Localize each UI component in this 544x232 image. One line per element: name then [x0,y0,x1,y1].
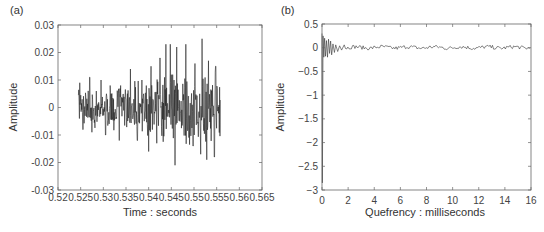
y-tick-label: −3 [307,185,319,196]
y-axis-label-a: Amplitude [7,83,19,132]
panel-label-b: (b) [281,4,294,16]
x-tick-label: 0.535 [113,192,138,203]
y-tick-label: −0.5 [298,66,318,77]
y-tick-label: 0 [312,42,318,53]
y-tick-label: 0.01 [35,75,55,86]
x-tick-label: 2 [345,195,351,206]
y-tick-label: 0.02 [35,47,55,58]
figure: (a) 0.030.020.010-0.01-0.02-0.03 0.520.5… [0,0,544,232]
x-tick-label: 6 [398,195,404,206]
y-tick-label: 0.03 [35,20,55,31]
x-tick-label: 0.525 [68,192,93,203]
x-tick-label: 12 [473,195,485,206]
x-tick-label: 0.55 [184,192,204,203]
x-tick-label: 16 [525,195,537,206]
x-tick-label: 0.555 [204,192,229,203]
y-tick-label: -0.02 [31,157,54,168]
y-tick-label: −1 [307,90,319,101]
x-tick-label: 0.56 [230,192,250,203]
x-tick-label: 0.54 [139,192,159,203]
chart-panel-b: (b) 0.50−0.5−1−1.5−2−2.5−3 0246810121416… [274,4,537,218]
x-axis-label-b: Quefrency : milliseconds [365,206,485,218]
x-tick-label: 0 [319,195,325,206]
y-tick-label: 0 [48,102,54,113]
x-tick-label: 4 [371,195,377,206]
x-axis-ticks-b: 0246810121416 [319,24,537,206]
x-tick-label: 0.53 [94,192,114,203]
y-axis-label-b: Amplitude [274,83,286,132]
waveform-line [78,39,220,166]
chart-panel-a: (a) 0.030.020.010-0.01-0.02-0.03 0.520.5… [7,4,275,218]
y-tick-label: −2 [307,137,319,148]
y-tick-label: -0.01 [31,130,54,141]
x-tick-label: 0.545 [159,192,184,203]
x-tick-label: 8 [424,195,430,206]
x-tick-label: 14 [499,195,511,206]
y-tick-label: −2.5 [298,161,318,172]
cepstrum-line [322,33,530,182]
waveform-polyline [78,39,220,166]
panel-label-a: (a) [10,4,23,16]
x-axis-label-a: Time : seconds [123,206,198,218]
y-tick-label: 0.5 [304,19,318,30]
x-tick-label: 0.52 [48,192,68,203]
x-tick-label: 0.565 [249,192,274,203]
x-tick-label: 10 [447,195,459,206]
y-tick-label: −1.5 [298,113,318,124]
plot-frame-b [322,24,531,190]
cepstrum-polyline [322,33,530,182]
